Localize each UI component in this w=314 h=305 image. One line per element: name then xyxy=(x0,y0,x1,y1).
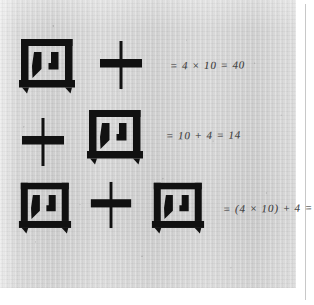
annotation-row-2: = 10 + 4 = 14 xyxy=(166,128,241,141)
character-shi-ten xyxy=(96,39,146,91)
character-si-four xyxy=(151,180,205,234)
character-si-four xyxy=(86,107,144,165)
scanned-page: = 4 × 10 = 40 xyxy=(0,0,314,305)
annotation-row-1: = 4 × 10 = 40 xyxy=(170,58,245,71)
equation-row-2: = 10 + 4 = 14 xyxy=(18,104,241,168)
character-si-four xyxy=(18,180,72,234)
character-si-four xyxy=(18,36,76,94)
character-shi-ten xyxy=(18,116,68,168)
equation-row-1: = 4 × 10 = 40 xyxy=(18,36,245,94)
character-shi-ten xyxy=(87,180,137,232)
equation-row-3: = (4 × 10) + 4 = 44 xyxy=(18,180,314,234)
annotation-row-3: = (4 × 10) + 4 = 44 xyxy=(223,201,314,214)
equation-rows: = 4 × 10 = 40 xyxy=(0,0,314,305)
